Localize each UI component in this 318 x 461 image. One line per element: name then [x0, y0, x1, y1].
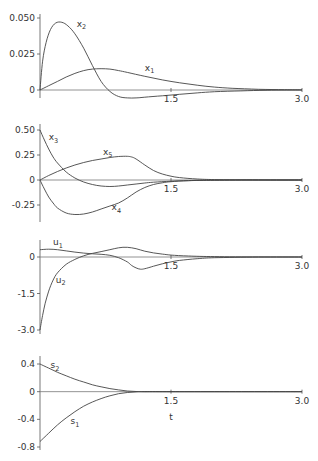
panel-3: 0-1.5-3.01.53.0u1u2 [17, 237, 309, 335]
y-tick-label: -0.8 [17, 442, 35, 452]
y-tick-label: -1.5 [17, 289, 35, 299]
series-label-x2: x2 [77, 19, 86, 32]
y-tick-label: -0.25 [12, 200, 35, 210]
panel-2: 0.500.250-0.251.53.0x3x4x5 [12, 124, 310, 222]
y-tick-label: 0 [29, 387, 35, 397]
series-line-x5 [40, 156, 302, 180]
series-label-x1: x1 [145, 63, 154, 76]
series-line-s2 [40, 364, 302, 392]
series-label-u2: u2 [56, 275, 66, 288]
series-line-x2 [40, 22, 302, 98]
y-tick-label: 0.25 [15, 150, 35, 160]
y-tick-label: -0.4 [17, 414, 35, 424]
series-label-s1: s1 [71, 416, 80, 429]
chart-figure: 0.0500.02501.53.0x1x20.500.250-0.251.53.… [0, 0, 318, 461]
x-tick-label: 3.0 [295, 261, 310, 271]
y-tick-label: 0 [29, 85, 35, 95]
series-label-x4: x4 [112, 202, 121, 215]
series-label-x5: x5 [103, 147, 112, 160]
series-label-s2: s2 [50, 360, 59, 373]
y-tick-label: 0.025 [9, 49, 35, 59]
x-tick-label: 1.5 [164, 184, 178, 194]
series-line-x1 [40, 69, 302, 90]
panel-1: 0.0500.02501.53.0x1x2 [9, 13, 309, 104]
y-tick-label: 0 [29, 252, 35, 262]
x-tick-label: 1.5 [164, 396, 178, 406]
y-tick-label: 0 [29, 175, 35, 185]
y-tick-label: 0.4 [21, 359, 36, 369]
panel-4: 0.40-0.4-0.81.53.0s1s2t [17, 356, 309, 452]
y-tick-label: 0.050 [9, 13, 35, 23]
series-label-u1: u1 [53, 237, 63, 250]
x-tick-label: 3.0 [295, 396, 310, 406]
x-tick-label: 3.0 [295, 94, 310, 104]
series-line-u2 [40, 247, 302, 330]
x-axis-label: t [169, 412, 173, 422]
x-tick-label: 3.0 [295, 184, 310, 194]
series-label-x3: x3 [49, 132, 58, 145]
y-tick-label: 0.50 [15, 125, 35, 135]
y-tick-label: -3.0 [17, 325, 35, 335]
